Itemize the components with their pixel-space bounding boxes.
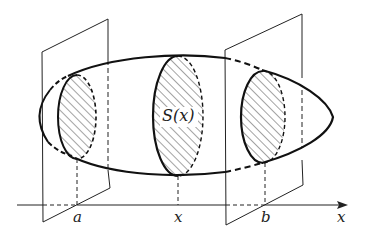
volume-by-cross-section-diagram: S(x) a x b x <box>0 0 371 244</box>
label-x-axis: x <box>337 210 345 225</box>
label-x-point: x <box>174 210 182 225</box>
cross-section-a <box>50 70 110 205</box>
cross-section-x <box>150 52 210 205</box>
label-s-of-x: S(x) <box>162 108 194 124</box>
x-axis <box>17 201 348 209</box>
label-a: a <box>73 210 82 225</box>
label-b: b <box>261 210 271 225</box>
cross-section-b <box>235 65 295 205</box>
